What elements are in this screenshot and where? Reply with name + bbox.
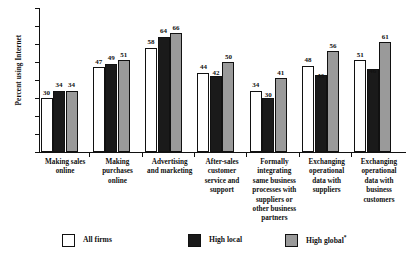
category-label-line: online — [86, 177, 148, 186]
bar-value-label: 61 — [374, 34, 396, 41]
bar-2-high-local — [105, 64, 117, 152]
bar-3-high-local — [158, 37, 170, 152]
category-label-line: Exchanging — [348, 158, 410, 167]
category-label-line: operational — [348, 167, 410, 176]
bar-group: 444250 — [197, 8, 249, 152]
legend-footnote-marker: * — [344, 234, 347, 240]
group-separator-tick — [142, 152, 143, 157]
category-label-line: customers — [348, 196, 410, 205]
bar-2-all-firms — [93, 67, 105, 152]
bar-6-high-local — [315, 75, 327, 152]
bar-group: 343041 — [249, 8, 301, 152]
bar-1-all-firms — [41, 98, 53, 152]
bar-5-high-local — [262, 98, 274, 152]
bar-5-all-firms — [250, 91, 262, 152]
bar-value-label: 66 — [165, 25, 187, 32]
bar-3-all-firms — [145, 48, 157, 152]
legend-item-all-firms[interactable]: All firms — [62, 232, 112, 248]
bar-value-label: 50 — [217, 54, 239, 61]
category-label-line: suppliers or — [243, 196, 305, 205]
bar-7-high-global — [379, 42, 391, 152]
group-separator-tick — [89, 152, 90, 157]
chart-legend: All firmsHigh localHigh global* — [0, 232, 412, 252]
legend-swatch — [285, 234, 298, 247]
legend-swatch — [62, 234, 75, 247]
bar-value-label: 51 — [349, 52, 371, 59]
legend-label: High local — [209, 236, 242, 244]
bar-value-label: 51 — [113, 52, 135, 59]
bar-value-label: 34 — [245, 82, 267, 89]
bar-group: 514661 — [354, 8, 406, 152]
bar-value-label: 48 — [297, 57, 319, 64]
y-axis-tick — [35, 152, 40, 153]
bar-value-label: 41 — [270, 70, 292, 77]
group-separator-tick — [246, 152, 247, 157]
bar-1-high-global — [66, 91, 78, 152]
group-separator-tick — [351, 152, 352, 157]
bar-6-high-global — [327, 51, 339, 152]
legend-label: High global* — [306, 235, 347, 244]
plot-area: 3034344749515864664442503430414843565146… — [40, 8, 406, 152]
category-label-line: data with — [348, 177, 410, 186]
legend-item-high-local[interactable]: High local — [188, 232, 242, 248]
group-separator-tick — [299, 152, 300, 157]
category-label-line: other business — [243, 205, 305, 214]
legend-item-high-global[interactable]: High global* — [285, 232, 347, 248]
y-axis-title: Percent using Internet — [15, 10, 23, 130]
bar-3-high-global — [170, 33, 182, 152]
bar-7-high-local — [367, 69, 379, 152]
bar-chart: Percent using Internet 80706050403020100… — [0, 0, 412, 259]
legend-label: All firms — [83, 236, 112, 244]
bar-4-all-firms — [197, 73, 209, 152]
bar-group: 484356 — [302, 8, 354, 152]
bar-group: 303434 — [40, 8, 92, 152]
group-separator-tick — [194, 152, 195, 157]
legend-swatch — [188, 234, 201, 247]
bar-2-high-global — [118, 60, 130, 152]
category-label-line: partners — [243, 214, 305, 223]
bar-4-high-global — [222, 62, 234, 152]
category-label-7: Exchangingoperationaldata withbusinesscu… — [348, 158, 410, 205]
bar-4-high-local — [210, 76, 222, 152]
bar-group: 586466 — [145, 8, 197, 152]
bar-group: 474951 — [92, 8, 144, 152]
category-label-line: business — [348, 186, 410, 195]
bar-1-high-local — [53, 91, 65, 152]
bar-value-label: 34 — [61, 82, 83, 89]
bar-value-label: 56 — [322, 43, 344, 50]
bar-5-high-global — [275, 78, 287, 152]
